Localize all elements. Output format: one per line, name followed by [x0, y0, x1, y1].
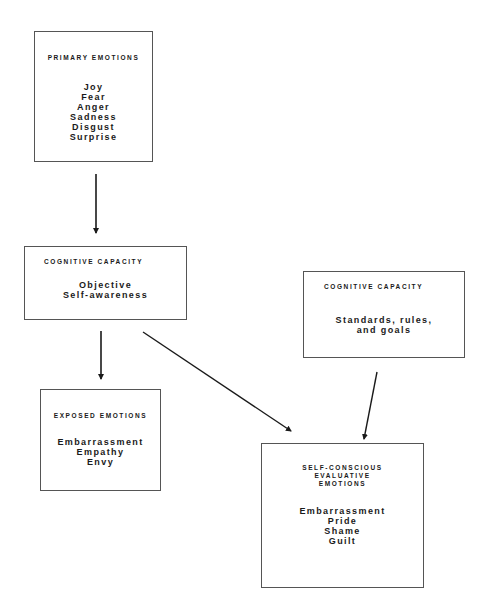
list-item: Disgust: [35, 122, 152, 132]
list-item: Embarrassment: [41, 437, 160, 447]
title-line: SELF-CONSCIOUS: [262, 464, 423, 472]
arrow-cognitive-self-to-self-conscious: [143, 332, 291, 431]
list-item: Sadness: [35, 112, 152, 122]
node-items: Joy Fear Anger Sadness Disgust Surprise: [35, 82, 152, 142]
node-exposed-emotions: EXPOSED EMOTIONS Embarrassment Empathy E…: [40, 389, 161, 491]
node-title: SELF-CONSCIOUS EVALUATIVE EMOTIONS: [262, 464, 423, 488]
list-item: Fear: [35, 92, 152, 102]
title-line: EMOTIONS: [262, 480, 423, 488]
list-item: Objective: [25, 280, 186, 290]
node-primary-emotions: PRIMARY EMOTIONS Joy Fear Anger Sadness …: [34, 31, 153, 162]
list-item: Guilt: [262, 536, 423, 546]
list-item: Self-awareness: [25, 290, 186, 300]
list-item: and goals: [304, 325, 464, 335]
arrow-cognitive-standards-to-self-conscious: [364, 372, 377, 439]
node-cognitive-capacity-self: COGNITIVE CAPACITY Objective Self-awaren…: [24, 246, 187, 320]
list-item: Pride: [262, 516, 423, 526]
node-title: EXPOSED EMOTIONS: [41, 412, 160, 420]
node-items: Embarrassment Pride Shame Guilt: [262, 506, 423, 546]
node-items: Standards, rules, and goals: [304, 315, 464, 335]
node-title: PRIMARY EMOTIONS: [35, 54, 152, 62]
list-item: Surprise: [35, 132, 152, 142]
node-items: Objective Self-awareness: [25, 280, 186, 300]
node-items: Embarrassment Empathy Envy: [41, 437, 160, 467]
node-self-conscious-evaluative-emotions: SELF-CONSCIOUS EVALUATIVE EMOTIONS Embar…: [261, 443, 424, 588]
list-item: Embarrassment: [262, 506, 423, 516]
list-item: Anger: [35, 102, 152, 112]
list-item: Envy: [41, 457, 160, 467]
list-item: Standards, rules,: [304, 315, 464, 325]
title-line: EVALUATIVE: [262, 472, 423, 480]
node-title: COGNITIVE CAPACITY: [304, 283, 464, 291]
list-item: Joy: [35, 82, 152, 92]
node-title: COGNITIVE CAPACITY: [25, 258, 186, 266]
node-cognitive-capacity-standards: COGNITIVE CAPACITY Standards, rules, and…: [303, 271, 465, 358]
list-item: Empathy: [41, 447, 160, 457]
list-item: Shame: [262, 526, 423, 536]
